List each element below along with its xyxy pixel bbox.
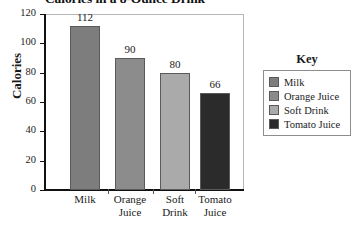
y-axis-tick-label: 60	[26, 95, 37, 106]
bar	[70, 26, 100, 190]
y-axis-tick-label: 80	[26, 66, 37, 77]
legend: Key MilkOrange JuiceSoft DrinkTomato Jui…	[263, 52, 351, 136]
legend-item-label: Milk	[284, 77, 304, 88]
legend-title: Key	[263, 52, 351, 67]
legend-color-swatch	[269, 91, 279, 101]
y-axis-tick: 20	[0, 161, 44, 162]
y-axis-tick-mark	[40, 43, 44, 44]
legend-color-swatch	[269, 105, 279, 115]
y-axis-tick: 60	[0, 102, 44, 103]
bar	[115, 58, 145, 190]
bar-value-label: 112	[61, 11, 109, 23]
legend-color-swatch	[269, 119, 279, 129]
bar-value-label: 66	[191, 78, 239, 90]
chart-title: Calories in a 8-Ounce Drink	[0, 0, 250, 7]
legend-item: Orange Juice	[269, 89, 346, 103]
y-axis-tick-label: 40	[26, 124, 37, 135]
legend-item: Tomato Juice	[269, 117, 346, 131]
y-axis-tick: 40	[0, 131, 44, 132]
y-axis-tick-mark	[40, 14, 44, 15]
bar-value-label: 80	[151, 58, 199, 70]
bar-value-label: 90	[106, 43, 154, 55]
y-axis-tick-mark	[40, 73, 44, 74]
y-axis-tick-mark	[40, 131, 44, 132]
y-axis-tick-label: 0	[31, 183, 36, 194]
y-axis-tick: 120	[0, 14, 44, 15]
legend-color-swatch	[269, 77, 279, 87]
y-axis-tick-label: 120	[20, 7, 36, 18]
x-axis-label-line: Tomato	[184, 193, 246, 206]
y-axis-tick-mark	[40, 161, 44, 162]
bar	[200, 93, 230, 190]
y-axis-tick: 100	[0, 43, 44, 44]
y-axis-tick-mark	[40, 190, 44, 191]
y-axis-tick-label: 20	[26, 154, 37, 165]
bar	[160, 73, 190, 190]
y-axis-tick: 0	[0, 190, 44, 191]
legend-box: MilkOrange JuiceSoft DrinkTomato Juice	[263, 70, 351, 136]
legend-item-label: Soft Drink	[284, 105, 329, 116]
y-axis-tick-mark	[40, 102, 44, 103]
x-axis-label-line: Juice	[184, 206, 246, 219]
legend-item-label: Orange Juice	[284, 91, 339, 102]
y-axis-tick: 80	[0, 73, 44, 74]
x-axis-label: TomatoJuice	[184, 193, 246, 219]
y-axis-tick-label: 100	[20, 36, 36, 47]
legend-item-label: Tomato Juice	[284, 119, 340, 130]
y-axis-line	[44, 14, 46, 190]
legend-item: Soft Drink	[269, 103, 346, 117]
legend-item: Milk	[269, 75, 346, 89]
